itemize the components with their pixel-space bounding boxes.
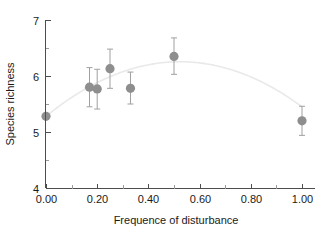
x-axis-tick-label: 1.00 [292, 193, 313, 205]
x-axis-tick-label: 0.60 [190, 193, 211, 205]
species-richness-scatter-figure: 45670.000.200.400.600.801.00 Frequence o… [0, 0, 331, 236]
y-axis-tick-label: 5 [33, 127, 39, 139]
data-point-marker [85, 83, 94, 92]
x-axis-tick-label: 0.40 [138, 193, 159, 205]
axes-layer [46, 20, 315, 189]
tick-labels-layer: 45670.000.200.400.600.801.00 [33, 15, 313, 206]
y-axis-title: Species richness [4, 62, 16, 146]
chart-canvas: 45670.000.200.400.600.801.00 Frequence o… [0, 0, 331, 236]
data-point-marker [93, 84, 102, 93]
y-axis-tick-label: 6 [33, 71, 39, 83]
data-point-marker [126, 84, 135, 93]
data-point-marker [297, 116, 306, 125]
data-point-marker [169, 52, 178, 61]
y-axis-tick-label: 7 [33, 15, 39, 27]
x-axis-tick-label: 0.00 [36, 193, 57, 205]
x-axis-tick-label: 0.80 [241, 193, 262, 205]
data-point-marker [105, 64, 114, 73]
x-axis-title: Frequence of disturbance [114, 214, 239, 226]
x-axis-tick-label: 0.20 [87, 193, 108, 205]
